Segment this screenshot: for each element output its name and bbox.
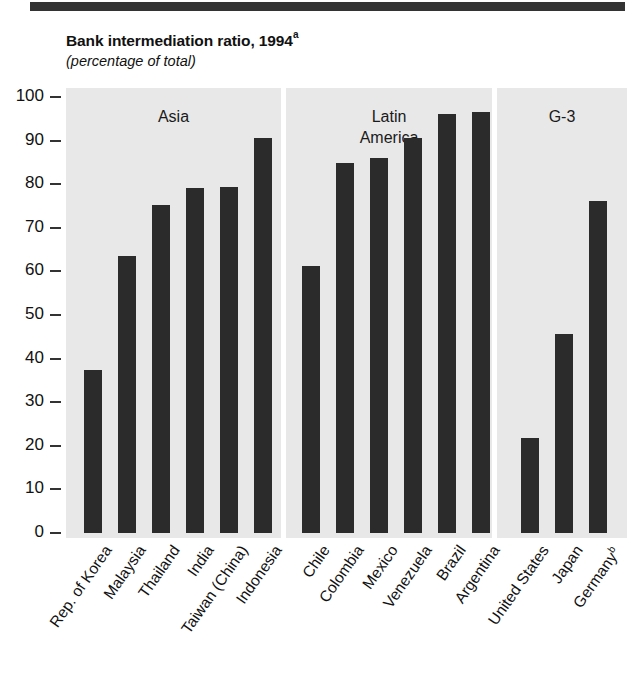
bar bbox=[438, 114, 456, 533]
plot-area: Asia Latin America G-3 bbox=[66, 88, 627, 538]
y-axis-tick-mark bbox=[50, 96, 61, 98]
y-axis-tick-label: 90 bbox=[25, 130, 44, 150]
y-axis-tick-mark bbox=[50, 314, 61, 316]
top-rule-decoration bbox=[30, 2, 625, 11]
y-axis-tick-mark bbox=[50, 140, 61, 142]
x-axis-label: Chile bbox=[299, 542, 333, 581]
y-axis-tick-mark bbox=[50, 445, 61, 447]
bar bbox=[84, 370, 102, 534]
chart-subtitle: (percentage of total) bbox=[66, 52, 586, 71]
y-axis-tick-label: 50 bbox=[25, 304, 44, 324]
panel-label-asia: Asia bbox=[66, 106, 281, 127]
panel-label-g3: G-3 bbox=[497, 106, 627, 127]
bar bbox=[555, 334, 573, 533]
panel-label-latin-america-line2: America bbox=[286, 127, 492, 148]
bar bbox=[472, 112, 490, 533]
chart-title-text: Bank intermediation ratio, 1994 bbox=[66, 32, 293, 49]
y-axis-tick-mark bbox=[50, 401, 61, 403]
y-axis-tick-label: 40 bbox=[25, 348, 44, 368]
bar bbox=[220, 187, 238, 533]
chart-figure: Bank intermediation ratio, 1994a (percen… bbox=[0, 0, 628, 692]
y-axis-tick-mark bbox=[50, 532, 61, 534]
panel-label-latin-america-line1: Latin bbox=[286, 106, 492, 127]
y-axis-tick-mark bbox=[50, 488, 61, 490]
y-axis-tick-label: 60 bbox=[25, 260, 44, 280]
x-axis-label: India bbox=[184, 542, 217, 579]
bar bbox=[370, 158, 388, 533]
y-axis-tick-mark bbox=[50, 270, 61, 272]
bar bbox=[186, 188, 204, 533]
panel-label-latin-america: Latin America bbox=[286, 106, 492, 148]
bar bbox=[336, 163, 354, 533]
bar bbox=[152, 205, 170, 533]
y-axis-tick-label: 70 bbox=[25, 217, 44, 237]
chart-title: Bank intermediation ratio, 1994a bbox=[66, 27, 586, 50]
x-axis-labels: Rep. of KoreaMalaysiaThailandIndiaTaiwan… bbox=[0, 538, 628, 692]
y-axis-tick-mark bbox=[50, 227, 61, 229]
bar bbox=[254, 138, 272, 533]
y-axis-tick-label: 10 bbox=[25, 478, 44, 498]
y-axis-tick-mark bbox=[50, 358, 61, 360]
y-axis-tick-label: 80 bbox=[25, 173, 44, 193]
bar bbox=[302, 266, 320, 533]
chart-title-footnote-marker: a bbox=[293, 29, 298, 40]
bar bbox=[404, 138, 422, 533]
y-axis: 1009080706050403020100 bbox=[0, 88, 66, 538]
y-axis-tick-mark bbox=[50, 183, 61, 185]
x-axis-label-footnote-marker: b bbox=[605, 544, 617, 555]
y-axis-tick-label: 100 bbox=[16, 86, 44, 106]
title-block: Bank intermediation ratio, 1994a (percen… bbox=[66, 27, 586, 71]
y-axis-tick-label: 20 bbox=[25, 435, 44, 455]
bar bbox=[589, 201, 607, 533]
y-axis-tick-label: 30 bbox=[25, 391, 44, 411]
bar bbox=[118, 256, 136, 533]
bar bbox=[521, 438, 539, 533]
